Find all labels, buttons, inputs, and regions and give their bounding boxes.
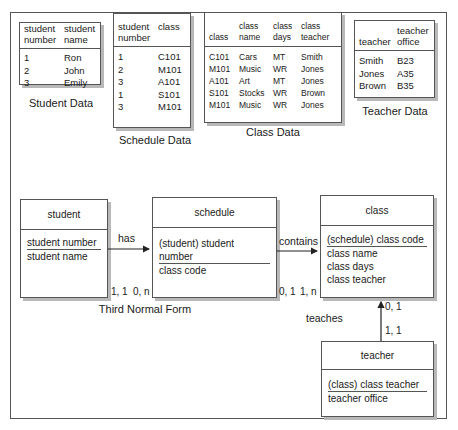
contains-label: contains <box>279 235 318 247</box>
contains-cardinality-from: 0, 1 <box>279 286 296 297</box>
has-label: has <box>118 232 135 244</box>
teaches-cardinality-from: 1, 1 <box>385 325 402 336</box>
teaches-label: teaches <box>306 312 343 324</box>
has-cardinality-to: 0, n <box>133 286 150 297</box>
diagram-caption: Third Normal Form <box>90 303 200 315</box>
relationship-arrows <box>0 0 458 430</box>
contains-cardinality-to: 1, n <box>300 286 317 297</box>
teaches-cardinality-to: 0, 1 <box>385 301 402 312</box>
has-cardinality-from: 1, 1 <box>111 286 128 297</box>
